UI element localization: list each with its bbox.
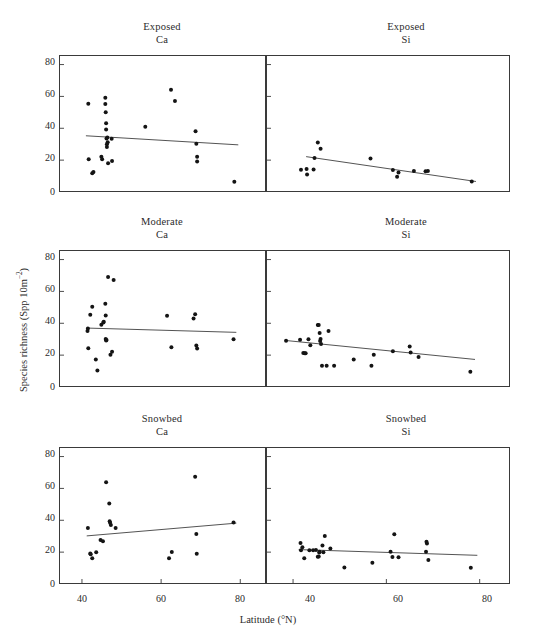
ytick-label: 80 bbox=[31, 56, 55, 67]
xtick-label: 40 bbox=[67, 593, 97, 604]
panel-title-line1: Exposed bbox=[143, 21, 181, 32]
plot-frame-moderate-si bbox=[266, 250, 510, 387]
panel-title-line1: Moderate bbox=[385, 216, 427, 227]
ytick-label: 20 bbox=[31, 347, 55, 358]
ytick-label: 80 bbox=[31, 448, 55, 459]
panel-title-line1: Moderate bbox=[141, 216, 183, 227]
panel-title-moderate-ca: Moderate Ca bbox=[59, 216, 265, 241]
ytick-label: 0 bbox=[31, 381, 55, 392]
panel-title-line2: Ca bbox=[59, 426, 265, 439]
ytick-label: 60 bbox=[31, 88, 55, 99]
y-axis-label-main: Species richness (Spp 10m bbox=[18, 279, 29, 392]
plot-frame-snowbed-ca bbox=[59, 447, 266, 584]
ytick-label: 40 bbox=[31, 512, 55, 523]
xtick-label: 60 bbox=[146, 593, 176, 604]
xtick-label: 80 bbox=[472, 593, 502, 604]
plot-frame-moderate-ca bbox=[59, 250, 266, 387]
panel-title-line1: Snowbed bbox=[386, 413, 426, 424]
ytick-label: 0 bbox=[31, 578, 55, 589]
ytick-label: 40 bbox=[31, 315, 55, 326]
panel-title-line2: Si bbox=[303, 229, 509, 242]
panel-title-exposed-si: Exposed Si bbox=[303, 21, 509, 46]
x-axis-label: Latitude (°N) bbox=[183, 614, 353, 625]
figure-scatter-grid: Exposed Ca Exposed Si Moderate Ca Modera… bbox=[0, 0, 533, 637]
ytick-label: 60 bbox=[31, 480, 55, 491]
xtick-label: 40 bbox=[295, 593, 325, 604]
ytick-label: 20 bbox=[31, 152, 55, 163]
plot-frame-snowbed-si bbox=[266, 447, 510, 584]
y-axis-label-tail: ) bbox=[18, 268, 29, 272]
ytick-label: 60 bbox=[31, 283, 55, 294]
ytick-label: 40 bbox=[31, 120, 55, 131]
ytick-label: 20 bbox=[31, 544, 55, 555]
panel-title-line1: Exposed bbox=[387, 21, 425, 32]
y-axis-label-exponent: −2 bbox=[16, 271, 24, 279]
plot-frame-exposed-ca bbox=[59, 55, 266, 192]
ytick-label: 80 bbox=[31, 251, 55, 262]
panel-title-line2: Si bbox=[303, 34, 509, 47]
panel-title-line2: Ca bbox=[59, 229, 265, 242]
panel-title-line2: Si bbox=[303, 426, 509, 439]
panel-title-snowbed-si: Snowbed Si bbox=[303, 413, 509, 438]
xtick-label: 60 bbox=[383, 593, 413, 604]
ytick-label: 0 bbox=[31, 186, 55, 197]
panel-title-exposed-ca: Exposed Ca bbox=[59, 21, 265, 46]
panel-title-snowbed-ca: Snowbed Ca bbox=[59, 413, 265, 438]
panel-title-line1: Snowbed bbox=[142, 413, 182, 424]
panel-title-line2: Ca bbox=[59, 34, 265, 47]
y-axis-label: Species richness (Spp 10m−2) bbox=[16, 268, 29, 392]
plot-frame-exposed-si bbox=[266, 55, 510, 192]
xtick-label: 80 bbox=[225, 593, 255, 604]
panel-title-moderate-si: Moderate Si bbox=[303, 216, 509, 241]
